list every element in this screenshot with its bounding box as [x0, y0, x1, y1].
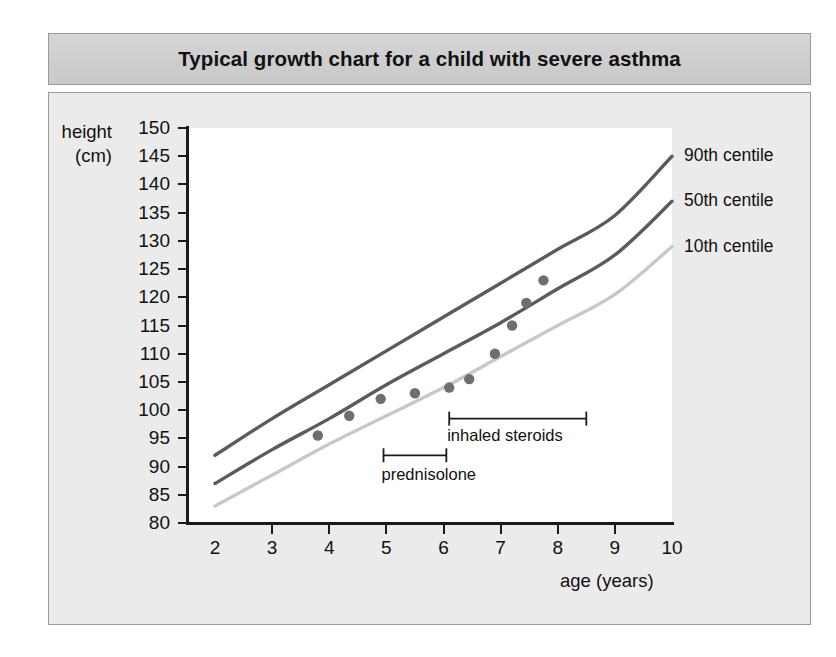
x-axis-tick-label: 4: [309, 538, 349, 557]
x-axis-tick: [500, 525, 502, 534]
x-axis-tick-label: 2: [195, 538, 235, 557]
x-axis-tick: [385, 525, 387, 534]
annotation-label-prednisolone: prednisolone: [382, 466, 477, 483]
annotation-label-inhaled-steroids: inhaled steroids: [447, 427, 563, 444]
y-axis-tick: [178, 240, 187, 242]
y-axis-tick-label: 125: [116, 259, 170, 278]
x-axis-tick-label: 9: [595, 538, 635, 557]
y-axis-tick-label: 110: [116, 344, 170, 363]
y-axis-tick: [178, 522, 187, 524]
y-axis-tick: [178, 381, 187, 383]
plot-area: [188, 128, 672, 523]
x-axis-tick-label: 5: [366, 538, 406, 557]
y-axis-tick: [178, 268, 187, 270]
y-axis-tick-label: 85: [116, 485, 170, 504]
y-axis-tick-label: 130: [116, 231, 170, 250]
y-axis-tick-label: 90: [116, 457, 170, 476]
y-axis-tick: [178, 296, 187, 298]
y-axis-tick-label: 115: [116, 316, 170, 335]
x-axis-tick: [443, 525, 445, 534]
x-axis-title: age (years): [560, 570, 654, 592]
x-axis-tick: [328, 525, 330, 534]
x-axis-tick-label: 8: [538, 538, 578, 557]
y-axis-tick-label: 150: [116, 118, 170, 137]
y-axis-tick: [178, 409, 187, 411]
legend-label-90th-centile: 90th centile: [684, 147, 774, 165]
y-axis-tick-label: 135: [116, 203, 170, 222]
legend-label-50th-centile: 50th centile: [684, 192, 774, 210]
y-axis-tick-label: 105: [116, 372, 170, 391]
y-axis-tick: [178, 437, 187, 439]
y-axis-title-line2: (cm): [54, 144, 112, 168]
y-axis-tick-labels: 8085909510010511011512012513013514014515…: [116, 0, 170, 657]
x-axis-tick: [614, 525, 616, 534]
x-axis-tick-label: 6: [424, 538, 464, 557]
page-title: Typical growth chart for a child with se…: [178, 47, 681, 71]
y-axis-tick: [178, 127, 187, 129]
y-axis-tick: [178, 494, 187, 496]
y-axis-tick: [178, 325, 187, 327]
x-axis-tick: [271, 525, 273, 534]
y-axis-tick-label: 100: [116, 400, 170, 419]
y-axis-title-line1: height: [54, 120, 112, 144]
y-axis-tick: [178, 466, 187, 468]
y-axis-tick-label: 140: [116, 174, 170, 193]
x-axis-tick-label: 10: [652, 538, 692, 557]
y-axis-tick-label: 95: [116, 428, 170, 447]
y-axis-title: height (cm): [54, 120, 112, 169]
y-axis-tick: [178, 155, 187, 157]
x-axis-tick-label: 7: [481, 538, 521, 557]
x-axis-line: [186, 522, 674, 525]
y-axis-tick: [178, 353, 187, 355]
x-axis-tick-label: 3: [252, 538, 292, 557]
legend-label-10th-centile: 10th centile: [684, 238, 774, 256]
y-axis-tick: [178, 183, 187, 185]
y-axis-tick-label: 120: [116, 287, 170, 306]
x-axis-tick: [557, 525, 559, 534]
y-axis-tick: [178, 212, 187, 214]
growth-chart-figure: Typical growth chart for a child with se…: [0, 0, 836, 657]
y-axis-tick-label: 145: [116, 146, 170, 165]
y-axis-tick-label: 80: [116, 513, 170, 532]
